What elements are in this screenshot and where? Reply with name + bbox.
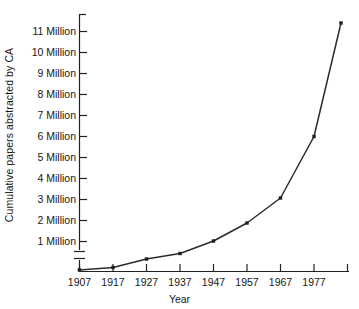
x-tick-label: 1917	[101, 276, 124, 288]
x-tick-label: 1967	[269, 276, 292, 288]
x-tick-label: 1907	[68, 276, 91, 288]
x-tick-label: 1937	[168, 276, 191, 288]
y-axis	[74, 14, 87, 272]
data-series-cumulative-papers	[78, 21, 343, 271]
x-tick-label: 1977	[302, 276, 325, 288]
y-axis-scale-break-icon	[74, 252, 85, 259]
x-tick-label: 1947	[202, 276, 225, 288]
data-point-markers	[78, 21, 343, 271]
x-tick-label: 1927	[135, 276, 158, 288]
x-axis-title: Year	[0, 293, 359, 305]
chart-canvas	[0, 0, 359, 309]
y-axis-ticks	[80, 32, 88, 242]
chart-figure: Cumulative papers abstracted by CA 1 Mil…	[0, 0, 359, 309]
x-tick-label: 1957	[235, 276, 258, 288]
